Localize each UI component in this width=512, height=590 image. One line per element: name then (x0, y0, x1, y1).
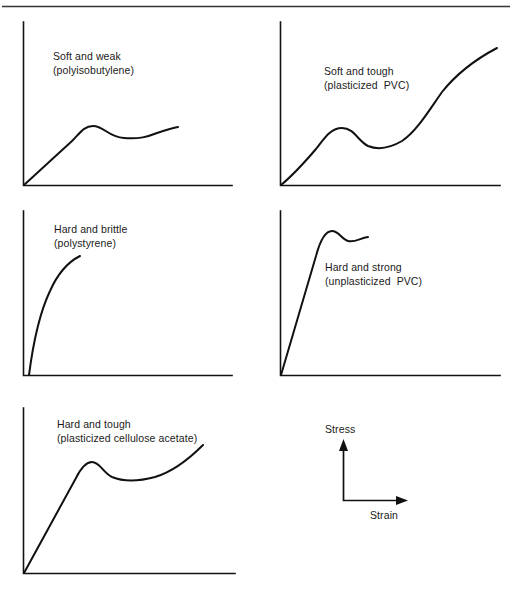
panel-1-axes (24, 22, 233, 186)
axis-key-stress-label: Stress (325, 423, 355, 435)
panel-4-axes (281, 211, 501, 376)
panel-5-label: Hard and tough (plasticized cellulose ac… (57, 418, 197, 445)
panel-4-curve (281, 231, 368, 375)
panel-5-curve (24, 445, 203, 573)
panel-3-label: Hard and brittle (polystyrene) (54, 223, 127, 250)
axis-key (339, 439, 408, 505)
panel-3-curve (29, 256, 80, 375)
figure-canvas (0, 0, 512, 590)
arrow-right-icon (396, 496, 408, 505)
panel-1-label: Soft and weak (polyisobutylene) (53, 50, 134, 77)
panel-1-curve (24, 126, 178, 185)
panel-2-axes (281, 22, 501, 186)
panel-2-label: Soft and tough (plasticized PVC) (324, 65, 409, 92)
panel-4-label: Hard and strong (unplasticized PVC) (325, 261, 422, 288)
arrow-up-icon (339, 439, 348, 451)
axis-key-strain-label: Strain (370, 509, 398, 521)
stress-strain-figure: Soft and weak (polyisobutylene) Soft and… (0, 0, 512, 590)
